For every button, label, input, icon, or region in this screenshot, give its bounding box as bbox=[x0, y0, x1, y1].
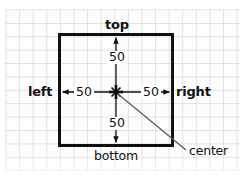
measure-value-bottom: 50 bbox=[107, 117, 127, 130]
center-leader-line bbox=[118, 94, 186, 150]
measure-value-top: 50 bbox=[107, 51, 127, 64]
diagram-canvas: top bottom left right 50 50 50 50 center bbox=[0, 0, 245, 179]
edge-label-left: left bbox=[28, 85, 52, 98]
edge-label-bottom: bottom bbox=[94, 150, 138, 163]
edge-label-top: top bbox=[105, 18, 129, 31]
measure-value-right: 50 bbox=[141, 86, 161, 99]
center-label: center bbox=[189, 145, 228, 158]
edge-label-right: right bbox=[176, 85, 211, 98]
measure-value-left: 50 bbox=[74, 86, 94, 99]
